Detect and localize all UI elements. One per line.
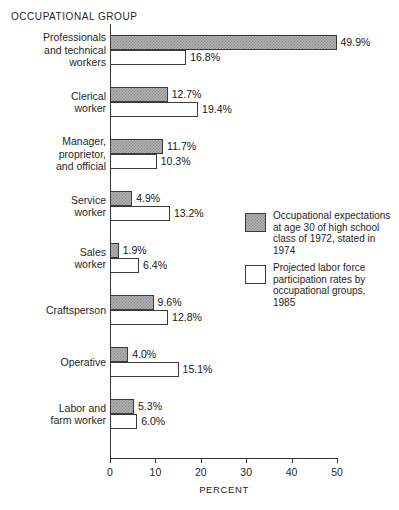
bar-expectations — [110, 295, 154, 310]
bar-value-label: 49.9% — [341, 35, 371, 50]
category-label-line: worker — [2, 102, 106, 115]
category-label: Clericalworker — [2, 90, 106, 115]
bar-value-label: 1.9% — [123, 243, 147, 258]
bar-projected — [110, 102, 198, 117]
x-tick-mark — [155, 458, 156, 463]
category-label: Serviceworker — [2, 194, 106, 219]
bar-value-label: 6.0% — [141, 414, 165, 429]
category-label-line: Service — [2, 194, 106, 207]
category-label: Craftsperson — [2, 304, 106, 317]
category-label-line: and technical — [2, 44, 106, 57]
category-label-line: worker — [2, 258, 106, 271]
bar-chart: OCCUPATIONAL GROUP Professionalsand tech… — [0, 0, 399, 510]
bar-expectations — [110, 243, 119, 258]
legend-label-line: 1985 — [273, 297, 395, 309]
bar-projected — [110, 362, 179, 377]
category-label: Labor andfarm worker — [2, 402, 106, 427]
x-tick-mark — [110, 458, 111, 463]
bar-projected — [110, 154, 157, 169]
x-tick-mark — [201, 458, 202, 463]
bar-value-label: 6.4% — [143, 258, 167, 273]
bar-projected — [110, 258, 139, 273]
bar-value-label: 13.2% — [174, 206, 204, 221]
category-label-line: Labor and — [2, 402, 106, 415]
bar-value-label: 9.6% — [158, 295, 182, 310]
bar-value-label: 4.9% — [136, 191, 160, 206]
legend-label: Projected labor forceparticipation rates… — [273, 262, 395, 308]
x-tick-mark — [337, 458, 338, 463]
bar-value-label: 11.7% — [167, 139, 196, 154]
bar-expectations — [110, 87, 168, 102]
x-tick-label: 50 — [322, 466, 352, 478]
bar-value-label: 19.4% — [202, 102, 232, 117]
category-label-group: Professionalsand technicalworkersClerica… — [0, 0, 106, 510]
x-tick-label: 0 — [95, 466, 125, 478]
bar-value-label: 10.3% — [161, 154, 191, 169]
category-label: Salesworker — [2, 246, 106, 271]
bar-value-label: 4.0% — [132, 347, 156, 362]
category-label-line: Operative — [2, 356, 106, 369]
x-tick-label: 10 — [140, 466, 170, 478]
legend-label: Occupational expectationsat age 30 of hi… — [273, 210, 395, 256]
category-label-line: workers — [2, 56, 106, 69]
bar-expectations — [110, 139, 163, 154]
category-label: Professionalsand technicalworkers — [2, 31, 106, 69]
x-tick-mark — [292, 458, 293, 463]
category-label: Manager,proprietor,and official — [2, 135, 106, 173]
x-axis-title: PERCENT — [110, 484, 338, 495]
legend-label-line: class of 1972, stated in — [273, 233, 395, 245]
category-label-line: proprietor, — [2, 148, 106, 161]
category-label-line: worker — [2, 206, 106, 219]
category-label-line: farm worker — [2, 414, 106, 427]
legend-label-line: participation rates by — [273, 274, 395, 286]
x-tick-mark — [246, 458, 247, 463]
legend-label-line: 1974 — [273, 245, 395, 257]
bar-expectations — [110, 347, 128, 362]
x-tick-label: 20 — [186, 466, 216, 478]
category-label-line: Professionals — [2, 31, 106, 44]
legend-label-line: Projected labor force — [273, 262, 395, 274]
x-axis-line — [110, 458, 338, 459]
category-label-line: Clerical — [2, 90, 106, 103]
legend-label-line: Occupational expectations — [273, 210, 395, 222]
bar-value-label: 16.8% — [190, 50, 220, 65]
legend-swatch-expectations — [245, 213, 266, 232]
category-label-line: Craftsperson — [2, 304, 106, 317]
x-tick-label: 30 — [231, 466, 261, 478]
bar-projected — [110, 50, 186, 65]
bar-projected — [110, 310, 168, 325]
legend-label-line: occupational groups, — [273, 285, 395, 297]
bar-value-label: 12.8% — [172, 310, 202, 325]
bar-value-label: 12.7% — [172, 87, 202, 102]
bar-value-label: 15.1% — [183, 362, 213, 377]
bar-projected — [110, 206, 170, 221]
x-tick-label: 40 — [277, 466, 307, 478]
category-label: Operative — [2, 356, 106, 369]
category-label-line: and official — [2, 160, 106, 173]
bar-expectations — [110, 191, 132, 206]
bar-expectations — [110, 399, 134, 414]
category-label-line: Sales — [2, 246, 106, 259]
bar-value-label: 5.3% — [138, 399, 162, 414]
category-label-line: Manager, — [2, 135, 106, 148]
bar-projected — [110, 414, 137, 429]
legend-label-line: at age 30 of high school — [273, 222, 395, 234]
bar-expectations — [110, 35, 337, 50]
legend-swatch-projected — [245, 265, 266, 284]
